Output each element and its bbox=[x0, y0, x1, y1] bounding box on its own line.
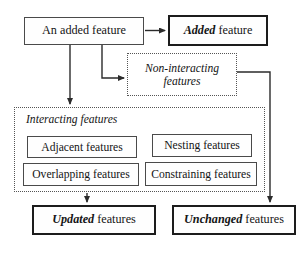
node-non-interacting-features-label: Non-interactingfeatures bbox=[145, 62, 219, 88]
node-nesting-features[interactable]: Nesting features bbox=[152, 134, 252, 157]
node-adjacent-features-label: Adjacent features bbox=[41, 141, 122, 154]
node-overlapping-features[interactable]: Overlapping features bbox=[23, 163, 139, 186]
node-non-interacting-features[interactable]: Non-interactingfeatures bbox=[127, 53, 237, 96]
node-updated-features-label: Updated features bbox=[52, 213, 136, 227]
node-updated-features[interactable]: Updated features bbox=[32, 205, 156, 235]
flowchart-canvas: An added feature Added feature Non-inter… bbox=[0, 0, 302, 266]
node-constraining-features[interactable]: Constraining features bbox=[145, 162, 257, 186]
node-added-feature-label: Added feature bbox=[184, 24, 253, 38]
node-added-feature[interactable]: Added feature bbox=[168, 15, 268, 46]
node-unchanged-features-label: Unchanged features bbox=[184, 213, 284, 227]
node-adjacent-features[interactable]: Adjacent features bbox=[27, 136, 137, 158]
node-unchanged-features[interactable]: Unchanged features bbox=[172, 205, 296, 235]
node-nesting-features-label: Nesting features bbox=[164, 139, 240, 152]
node-an-added-feature[interactable]: An added feature bbox=[24, 17, 144, 45]
node-constraining-features-label: Constraining features bbox=[151, 168, 251, 181]
node-overlapping-features-label: Overlapping features bbox=[32, 168, 130, 181]
group-interacting-features-label: Interacting features bbox=[26, 113, 117, 126]
node-an-added-feature-label: An added feature bbox=[42, 24, 126, 38]
edge-added-source-to-noninteracting bbox=[102, 45, 124, 78]
